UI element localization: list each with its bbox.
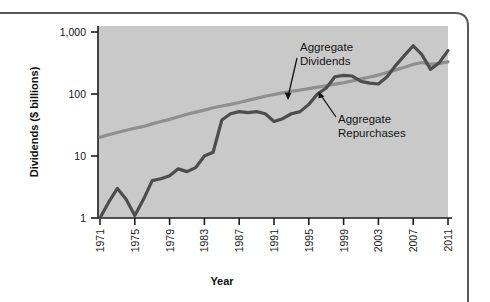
- x-axis-title: Year: [210, 275, 234, 287]
- annotation-dividends-line1: Aggregate: [300, 41, 353, 53]
- x-tick-label-1999: 1999: [338, 229, 350, 253]
- annotation-dividends-line2: Dividends: [300, 55, 351, 67]
- x-tick-label-1975: 1975: [129, 229, 141, 253]
- x-tick-label-2011: 2011: [442, 229, 454, 252]
- y-axis-ticks: [91, 32, 98, 218]
- y-axis-title: Dividends ($ billions): [28, 66, 40, 177]
- y-tick-label-1: 1: [80, 212, 86, 224]
- y-tick-label-1000: 1,000: [60, 26, 86, 38]
- x-tick-label-1979: 1979: [164, 229, 176, 253]
- x-tick-label-1995: 1995: [303, 229, 315, 253]
- y-axis-tick-labels: 1,000 100 10 1: [60, 26, 86, 224]
- figure-container: 1,000 100 10 1 Dividends ($ billions) 19…: [0, 0, 490, 302]
- x-tick-label-2003: 2003: [372, 229, 384, 253]
- x-tick-label-1983: 1983: [198, 229, 210, 253]
- annotation-repurchases-line1: Aggregate: [338, 113, 391, 125]
- y-tick-label-100: 100: [68, 88, 86, 100]
- x-axis-tick-labels: 1971 1975 1979 1983 1987 1991 1995 1999 …: [94, 229, 454, 253]
- x-tick-label-1991: 1991: [268, 229, 280, 253]
- x-tick-label-1971: 1971: [94, 229, 106, 253]
- dividends-repurchases-chart: 1,000 100 10 1 Dividends ($ billions) 19…: [0, 0, 490, 302]
- x-tick-label-1987: 1987: [233, 229, 245, 253]
- x-axis-ticks: [100, 218, 448, 225]
- y-tick-label-10: 10: [74, 150, 86, 162]
- x-tick-label-2007: 2007: [407, 229, 419, 253]
- annotation-repurchases-line2: Repurchases: [338, 127, 406, 139]
